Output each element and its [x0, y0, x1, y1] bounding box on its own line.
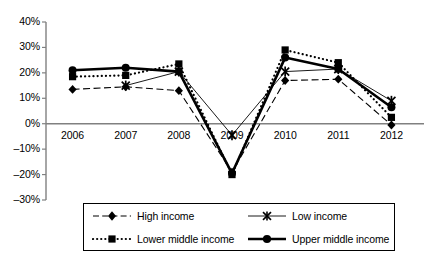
- data-point-marker: [175, 60, 182, 67]
- series-upper-middle-income: [69, 54, 396, 178]
- data-point-marker: [175, 86, 183, 95]
- x-tick-label: 2009: [211, 129, 253, 141]
- data-point-marker: [281, 54, 289, 62]
- x-tick-label: 2010: [264, 129, 306, 141]
- chart-legend: High income Low income Low: [83, 203, 395, 251]
- series-lower-middle-income: [69, 46, 395, 178]
- data-point-marker: [281, 76, 289, 85]
- legend-item-upper-middle-income[interactable]: Upper middle income: [239, 232, 394, 246]
- data-point-marker: [387, 103, 395, 111]
- legend-item-low-income[interactable]: Low income: [239, 209, 394, 223]
- series-high-income: [68, 75, 395, 177]
- y-tick-label: –20%: [2, 168, 40, 180]
- x-tick-label: 2012: [370, 129, 412, 141]
- legend-label-lower-middle-income: Lower middle income: [137, 233, 234, 245]
- y-tick-label: –30%: [2, 193, 40, 205]
- y-tick-label: 40%: [2, 15, 40, 27]
- data-point-marker: [388, 114, 395, 121]
- data-point-marker: [228, 169, 236, 177]
- legend-label-low-income: Low income: [292, 210, 347, 222]
- data-point-marker: [334, 75, 342, 84]
- data-point-marker: [334, 65, 342, 73]
- y-tick-label: 20%: [2, 66, 40, 78]
- x-tick-label: 2011: [317, 129, 359, 141]
- data-point-marker: [69, 66, 77, 74]
- legend-swatch-low-income: [247, 209, 287, 223]
- y-tick-label: 30%: [2, 40, 40, 52]
- data-point-marker: [68, 85, 76, 94]
- legend-swatch-high-income: [92, 209, 132, 223]
- data-point-marker: [122, 72, 129, 79]
- legend-item-lower-middle-income[interactable]: Lower middle income: [84, 232, 239, 246]
- legend-item-high-income[interactable]: High income: [84, 209, 239, 223]
- legend-label-high-income: High income: [137, 210, 194, 222]
- series-layer: [68, 46, 395, 178]
- x-tick-label: 2008: [158, 129, 200, 141]
- y-tick-label: 10%: [2, 91, 40, 103]
- data-point-marker: [282, 46, 289, 53]
- series-line: [73, 58, 392, 174]
- x-tick-label: 2007: [105, 129, 147, 141]
- data-point-marker: [122, 64, 130, 72]
- data-point-marker: [175, 68, 183, 76]
- line-chart: 40%30%20%10%0%–10%–20%–30% 2006200720082…: [0, 0, 434, 267]
- series-line: [73, 79, 392, 172]
- legend-label-upper-middle-income: Upper middle income: [292, 233, 389, 245]
- y-tick-label: –10%: [2, 142, 40, 154]
- x-tick-label: 2006: [52, 129, 94, 141]
- y-tick-label: 0%: [2, 117, 40, 129]
- legend-swatch-upper-middle-income: [247, 232, 287, 246]
- legend-swatch-lower-middle-income: [92, 232, 132, 246]
